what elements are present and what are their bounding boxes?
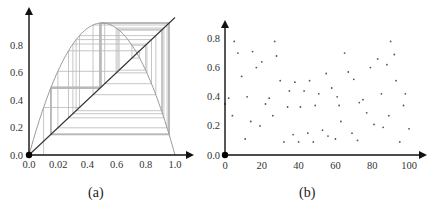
data-point (250, 121, 252, 123)
scatter-points (224, 41, 410, 143)
y-tick-labels: 0.00.20.40.60.8 (10, 40, 24, 161)
x-tick-label: 40 (293, 160, 304, 171)
data-point (388, 115, 390, 117)
y-tick-label: 0.4 (10, 95, 24, 106)
data-point (233, 41, 235, 43)
figure: 0.00.020.40.60.81.0 0.00.20.40.60.8 0204… (0, 0, 437, 211)
data-point (408, 128, 410, 130)
data-point (237, 52, 239, 54)
data-point (300, 106, 302, 108)
data-point (246, 96, 248, 98)
data-point (335, 138, 337, 140)
cobweb-path (44, 23, 170, 155)
data-point (322, 129, 324, 131)
data-point (362, 99, 364, 101)
data-point (303, 90, 305, 92)
y-tick-label: 0.0 (207, 150, 220, 161)
y-tick-label: 0.0 (10, 150, 23, 161)
data-point (309, 80, 311, 82)
data-point (381, 93, 383, 95)
data-point (261, 61, 263, 63)
data-point (312, 141, 314, 143)
data-point (265, 103, 267, 105)
x-tick-label: 60 (330, 160, 341, 171)
cobweb-lines (44, 23, 170, 155)
data-point (327, 135, 329, 137)
data-point (377, 58, 379, 60)
y-tick-label: 0.6 (10, 67, 23, 78)
data-point (276, 55, 278, 57)
data-point (340, 121, 342, 123)
data-point (287, 106, 289, 108)
data-point (252, 51, 254, 53)
data-point (331, 87, 333, 89)
y-tick-label: 0.8 (10, 40, 23, 51)
y-tick-label: 0.2 (207, 120, 220, 131)
x-tick-labels: 0.00.020.40.60.81.0 (22, 159, 181, 170)
logistic-curve (29, 23, 175, 155)
data-point (403, 105, 405, 107)
data-point (241, 76, 243, 78)
data-point (347, 71, 349, 73)
data-point (244, 138, 246, 140)
data-point (259, 125, 261, 127)
x-tick-label: 0.0 (22, 159, 35, 170)
data-point (289, 90, 291, 92)
origin-dot (26, 152, 32, 158)
data-point (395, 80, 397, 82)
x-tick-label: 0 (222, 160, 227, 171)
data-point (283, 141, 285, 143)
data-point (404, 93, 406, 95)
data-point (353, 78, 355, 80)
y-tick-label: 0.4 (207, 91, 221, 102)
scatter-chart: 020406080100 0.00.20.40.60.8 (207, 22, 425, 171)
data-point (268, 97, 270, 99)
data-point (366, 112, 368, 114)
data-point (358, 102, 360, 104)
data-point (393, 54, 395, 56)
x-tick-label: 0.6 (110, 159, 123, 170)
data-point (382, 126, 384, 128)
x-tick-label: 0.4 (81, 159, 95, 170)
data-point (399, 141, 401, 143)
y-tick-labels: 0.00.20.40.60.8 (207, 33, 221, 160)
caption-b: (b) (299, 185, 315, 201)
data-point (292, 134, 294, 136)
x-tick-labels: 020406080100 (222, 160, 417, 171)
data-point (307, 132, 309, 134)
data-point (336, 96, 338, 98)
data-point (298, 141, 300, 143)
y-tick-label: 0.6 (207, 62, 220, 73)
x-tick-label: 1.0 (168, 159, 181, 170)
data-point (386, 64, 388, 66)
data-point (279, 80, 281, 82)
cobweb-chart: 0.00.020.40.60.81.0 0.00.20.40.60.8 (10, 9, 192, 170)
origin-dot (222, 152, 228, 158)
data-point (314, 105, 316, 107)
data-point (338, 105, 340, 107)
x-tick-label: 0.8 (139, 159, 152, 170)
x-tick-label: 80 (367, 160, 378, 171)
caption-a: (a) (88, 185, 104, 201)
data-point (390, 41, 392, 43)
x-tick-label: 20 (257, 160, 268, 171)
x-tick-label: 100 (401, 160, 417, 171)
data-point (351, 132, 353, 134)
data-point (373, 124, 375, 126)
data-point (344, 52, 346, 54)
data-point (357, 140, 359, 142)
data-point (255, 67, 257, 69)
y-tick-label: 0.2 (10, 122, 23, 133)
data-point (325, 73, 327, 75)
data-point (370, 67, 372, 69)
y-tick-label: 0.8 (207, 33, 220, 44)
data-point (232, 115, 234, 117)
x-tick-label: 0.02 (49, 159, 67, 170)
data-point (274, 41, 276, 43)
data-point (318, 93, 320, 95)
data-point (272, 115, 274, 117)
data-point (228, 97, 230, 99)
data-point (294, 81, 296, 83)
